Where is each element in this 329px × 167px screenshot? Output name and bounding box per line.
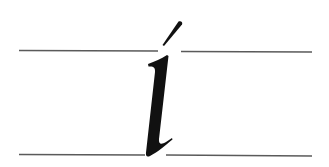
x-height-line-left (19, 51, 158, 52)
baseline-right (166, 155, 312, 156)
acute-accent-icon (163, 21, 183, 46)
italic-i-stem-icon (146, 55, 173, 157)
baseline-left (19, 155, 145, 156)
glyph-canvas (0, 0, 329, 167)
x-height-line-right (181, 52, 312, 53)
